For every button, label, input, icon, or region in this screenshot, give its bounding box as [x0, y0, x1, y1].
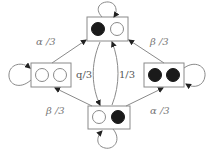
label-right-to-top: β /3 [150, 37, 169, 47]
edge-bottom-to-left [55, 88, 92, 106]
label-bottom-to-right: α /3 [150, 106, 170, 116]
empty-circle-icon [54, 69, 67, 82]
filled-circle-icon [112, 111, 125, 124]
self-loop-left [9, 64, 31, 85]
state-left [31, 63, 71, 87]
self-loop-right [184, 64, 205, 86]
state-diagram [0, 0, 214, 151]
edge-bottom-to-top [112, 42, 118, 105]
self-loop-top [98, 2, 116, 17]
empty-circle-icon [111, 23, 124, 36]
self-loop-bottom [98, 129, 117, 148]
label-left-self: q/3 [76, 70, 92, 80]
label-vertical: 1/3 [119, 70, 135, 80]
edge-top-to-bottom [93, 42, 100, 105]
filled-circle-icon [149, 69, 162, 82]
empty-circle-icon [93, 111, 106, 124]
state-top [87, 17, 128, 41]
edge-left-to-top [52, 40, 86, 63]
empty-circle-icon [36, 69, 49, 82]
state-right [144, 63, 184, 87]
label-bottom-to-left: β /3 [46, 106, 65, 116]
filled-circle-icon [92, 23, 105, 36]
edge-bottom-to-right [126, 88, 163, 106]
filled-circle-icon [167, 69, 180, 82]
state-bottom [88, 106, 130, 129]
label-left-to-top: α /3 [36, 37, 56, 47]
